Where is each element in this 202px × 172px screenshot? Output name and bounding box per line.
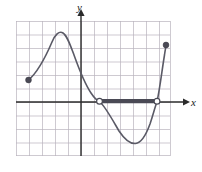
closed-point-right-endpoint — [163, 42, 169, 48]
x-axis-arrowhead — [183, 98, 190, 105]
x-axis-label: x — [190, 96, 196, 108]
closed-point-left-endpoint — [26, 77, 32, 83]
open-point-left-root — [97, 98, 103, 104]
open-point-right-root — [154, 98, 160, 104]
grid-lines — [16, 21, 171, 156]
axes — [16, 9, 190, 156]
y-axis-label: y — [76, 1, 82, 13]
coordinate-plane-svg: y x — [0, 0, 202, 172]
function-curve — [29, 32, 167, 143]
graph-figure: y x — [0, 0, 202, 172]
